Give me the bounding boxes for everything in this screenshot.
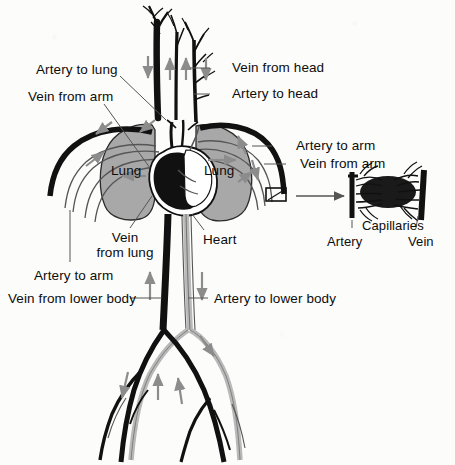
- label-artery-to-lower-body: Artery to lower body: [214, 291, 336, 306]
- leader-heart: [192, 214, 204, 230]
- label-artery-to-lung: Artery to lung: [36, 62, 118, 77]
- label-artery-to-arm-left: Artery to arm: [34, 268, 113, 283]
- label-vein-from-lung: Vein from lung: [88, 230, 162, 260]
- label-lung-right: Lung: [204, 163, 234, 178]
- inset-vein-trunk: [421, 170, 424, 220]
- label-vein-from-arm-right: Vein from arm: [300, 156, 385, 171]
- label-heart: Heart: [203, 232, 237, 247]
- head-vessels: [143, 6, 215, 122]
- label-vein-from-head: Vein from head: [232, 60, 324, 75]
- label-vein-from-arm-left: Vein from arm: [28, 89, 113, 104]
- label-artery-to-arm-right: Artery to arm: [296, 138, 375, 153]
- arrow-leg-vein-up-2: [178, 378, 182, 404]
- label-vein-from-lower-body: Vein from lower body: [8, 291, 136, 306]
- label-capillaries: Capillaries: [362, 218, 424, 233]
- label-vein-inset: Vein: [408, 234, 434, 249]
- capillary-network: [360, 176, 416, 208]
- label-lung-left: Lung: [111, 163, 141, 178]
- label-vein-from-lung-line2: from lung: [96, 245, 153, 260]
- label-vein-from-lung-line1: Vein: [112, 230, 139, 245]
- trunk-vessels: [163, 214, 195, 330]
- label-artery-to-head: Artery to head: [232, 86, 318, 101]
- label-artery-inset: Artery: [327, 234, 362, 249]
- circulatory-system-diagram: Artery to lung Vein from arm Vein from h…: [0, 0, 455, 465]
